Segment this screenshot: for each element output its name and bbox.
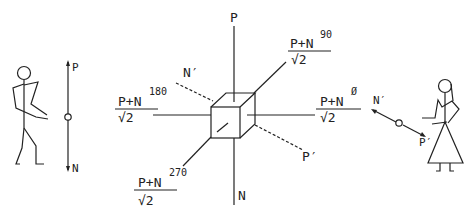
fraction-n0: P+N Ø √2 <box>316 86 361 125</box>
center-label-n: N <box>238 188 246 203</box>
fraction-n90-numerator: P+N <box>290 36 313 51</box>
right-np-prime-axis: N′ P′ <box>371 94 432 149</box>
fraction-n90: P+N 90 √2 <box>288 29 332 67</box>
diagram-svg: P N P N N′ P′ P+N 90 √2 P+ <box>0 0 475 221</box>
fraction-n270-superscript: 270 <box>169 167 187 178</box>
fraction-n180-superscript: 180 <box>149 86 167 97</box>
fraction-n0-numerator: P+N <box>320 94 343 109</box>
left-pn-axis: P N <box>65 60 79 175</box>
fraction-n270-numerator: P+N <box>138 175 161 190</box>
left-axis-label-n: N <box>72 162 79 175</box>
fraction-n180-numerator: P+N <box>118 94 141 109</box>
fraction-n270: P+N 270 √2 <box>134 167 187 208</box>
center-label-p-prime: P′ <box>302 149 318 164</box>
center-label-n-prime: N′ <box>183 65 199 80</box>
fraction-n90-superscript: 90 <box>320 29 332 40</box>
right-axis-label-n-prime: N′ <box>373 94 386 107</box>
fraction-n0-superscript: Ø <box>351 86 357 97</box>
left-axis-label-p: P <box>72 61 79 74</box>
fraction-n90-denominator: √2 <box>291 52 307 67</box>
polarization-diagram: P N P N N′ P′ P+N 90 √2 P+ <box>0 0 475 221</box>
right-stick-figure <box>422 80 463 172</box>
center-label-p: P <box>230 10 238 25</box>
fraction-n180-denominator: √2 <box>118 110 134 125</box>
fraction-n270-denominator: √2 <box>138 193 154 208</box>
right-axis-label-p-prime: P′ <box>419 136 432 149</box>
fraction-n0-denominator: √2 <box>320 110 336 125</box>
left-stick-figure <box>13 67 48 165</box>
fraction-n180: P+N 180 √2 <box>115 86 167 125</box>
